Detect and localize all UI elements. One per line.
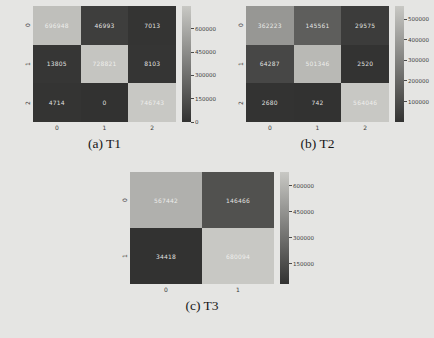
- colorbar-tick: 200000: [404, 78, 429, 84]
- colorbar-tick: 400000: [404, 37, 429, 43]
- heatmap-cell: 696948: [33, 6, 81, 45]
- y-tick-label: 1: [238, 62, 244, 66]
- x-tick-label: 0: [55, 124, 59, 131]
- subfigure-caption: (a) T1: [33, 136, 176, 152]
- heatmap-cell: 64287: [246, 45, 294, 84]
- heatmap-cell: 501346: [294, 45, 342, 84]
- colorbar-tick-mark: [191, 98, 194, 99]
- colorbar-tick-label: 100000: [408, 99, 429, 105]
- heatmap-grid: 56744214646634418680094: [130, 172, 274, 284]
- colorbar: 500000400000300000200000100000: [395, 6, 434, 122]
- colorbar-tick: 300000: [289, 235, 314, 241]
- heatmap-cell: 746743: [128, 83, 176, 122]
- colorbar-tick: 500000: [404, 16, 429, 22]
- heatmap-cell: 362223: [246, 6, 294, 45]
- colorbar-tick-mark: [289, 211, 292, 212]
- y-tick-label: 0: [25, 23, 31, 27]
- colorbar-tick-mark: [404, 60, 407, 61]
- colorbar-tick-label: 400000: [408, 37, 429, 43]
- x-axis-ticks: 012: [33, 122, 176, 133]
- heatmap-cell: 13805: [33, 45, 81, 84]
- subfigure-caption: (c) T3: [130, 298, 274, 314]
- colorbar-gradient: [280, 172, 289, 284]
- x-tick-label: 1: [236, 286, 240, 293]
- x-tick-label: 0: [268, 124, 272, 131]
- plot-area: 012 362223145561295756428750134625202680…: [233, 6, 434, 122]
- colorbar-tick-mark: [404, 19, 407, 20]
- y-tick-label: 2: [25, 101, 31, 105]
- colorbar-tick-label: 300000: [293, 235, 314, 241]
- heatmap-grid: 3622231455612957564287501346252026807425…: [246, 6, 389, 122]
- colorbar-tick-mark: [191, 52, 194, 53]
- heatmap-panel-t3: 01 56744214646634418680094 6000004500003…: [97, 172, 326, 314]
- colorbar-tick-mark: [404, 39, 407, 40]
- heatmap-cell: 145561: [294, 6, 342, 45]
- colorbar-tick-label: 300000: [408, 57, 429, 63]
- colorbar-tick-label: 0: [195, 119, 199, 125]
- heatmap-panel-t1: 012 696948469937013138057288218103471407…: [0, 6, 228, 152]
- plot-area: 012 696948469937013138057288218103471407…: [20, 6, 228, 122]
- x-tick-label: 2: [363, 124, 367, 131]
- colorbar-tick-label: 200000: [408, 78, 429, 84]
- colorbar-tick: 0: [191, 119, 199, 125]
- heatmap-cell: 46993: [81, 6, 129, 45]
- colorbar-tick-label: 500000: [408, 16, 429, 22]
- heatmap-cell: 564046: [341, 83, 389, 122]
- colorbar-tick: 100000: [404, 99, 429, 105]
- colorbar-tick-mark: [289, 237, 292, 238]
- colorbar-tick-mark: [191, 28, 194, 29]
- colorbar-gradient: [182, 6, 191, 122]
- plot-area: 01 56744214646634418680094 6000004500003…: [117, 172, 326, 284]
- heatmap-cell: 29575: [341, 6, 389, 45]
- heatmap-cell: 0: [81, 83, 129, 122]
- heatmap-grid: 6969484699370131380572882181034714074674…: [33, 6, 176, 122]
- colorbar-tick-mark: [191, 122, 194, 123]
- colorbar-tick-mark: [289, 185, 292, 186]
- x-tick-label: 1: [316, 124, 320, 131]
- colorbar-tick-mark: [191, 75, 194, 76]
- y-axis-ticks: 01: [117, 172, 130, 284]
- heatmap-cell: 8103: [128, 45, 176, 84]
- y-axis-ticks: 012: [20, 6, 33, 122]
- x-tick-label: 0: [164, 286, 168, 293]
- y-tick-label: 2: [238, 101, 244, 105]
- heatmap-cell: 567442: [130, 172, 202, 228]
- colorbar-tick-mark: [404, 101, 407, 102]
- y-tick-label: 0: [238, 23, 244, 27]
- y-tick-label: 1: [122, 254, 128, 258]
- colorbar-tick: 450000: [289, 209, 314, 215]
- y-tick-label: 1: [25, 62, 31, 66]
- heatmap-cell: 2680: [246, 83, 294, 122]
- colorbar-tick-mark: [404, 80, 407, 81]
- x-tick-label: 1: [103, 124, 107, 131]
- heatmap-cell: 146466: [202, 172, 274, 228]
- colorbar-tick: 150000: [289, 261, 314, 267]
- x-tick-label: 2: [150, 124, 154, 131]
- colorbar-tick-label: 150000: [293, 261, 314, 267]
- heatmap-cell: 7013: [128, 6, 176, 45]
- x-axis-ticks: 01: [130, 284, 274, 295]
- heatmap-cell: 34418: [130, 228, 202, 284]
- heatmap-cell: 728821: [81, 45, 129, 84]
- colorbar-tick-mark: [289, 263, 292, 264]
- x-axis-ticks: 012: [246, 122, 389, 133]
- subfigure-caption: (b) T2: [246, 136, 389, 152]
- colorbar-tick-label: 600000: [293, 183, 314, 189]
- heatmap-cell: 2520: [341, 45, 389, 84]
- colorbar-tick-label: 450000: [293, 209, 314, 215]
- colorbar-tick: 600000: [289, 183, 314, 189]
- heatmap-cell: 680094: [202, 228, 274, 284]
- heatmap-panel-t2: 012 362223145561295756428750134625202680…: [213, 6, 434, 152]
- colorbar-tick: 300000: [404, 57, 429, 63]
- y-tick-label: 0: [122, 198, 128, 202]
- y-axis-ticks: 012: [233, 6, 246, 122]
- colorbar-gradient: [395, 6, 404, 122]
- heatmap-cell: 4714: [33, 83, 81, 122]
- colorbar: 600000450000300000150000: [280, 172, 326, 284]
- heatmap-cell: 742: [294, 83, 342, 122]
